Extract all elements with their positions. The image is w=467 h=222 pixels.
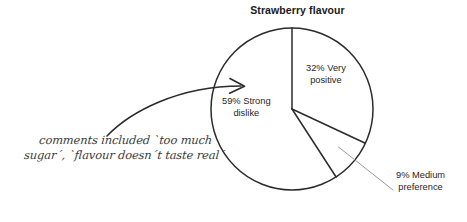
slice-label-very-positive: 32% Very positive [306,62,346,87]
slice-label-medium-preference-line1: 9% Medium [396,170,445,180]
slice-label-very-positive-line2: positive [306,74,346,86]
slice-label-strong-dislike-line1: 59% Strong [222,96,271,106]
page-title: Strawberry flavour [0,4,467,16]
handwritten-annotation-line1: comments included `too much [39,133,213,147]
slice-label-medium-preference-line2: preference [396,181,445,193]
slice-label-very-positive-line1: 32% Very [306,63,346,73]
chart-title-text: Strawberry flavour [250,4,345,16]
handwritten-annotation-line2: sugar´, `flavour doesn´t taste real´ [13,148,236,163]
handwritten-annotation: comments included `too much sugar´, `fla… [13,133,238,163]
slice-label-medium-preference: 9% Medium preference [396,169,445,194]
slice-label-strong-dislike-line2: dislike [222,107,271,119]
slice-label-strong-dislike: 59% Strong dislike [222,95,271,120]
chart-canvas: Strawberry flavour 32% Very positive 59%… [0,0,467,222]
